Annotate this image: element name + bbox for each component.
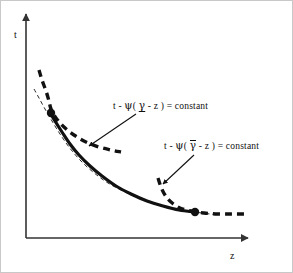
x-axis-label: z (230, 251, 234, 261)
psi-symbol: ψ (175, 139, 183, 151)
figure-container: t z t - ψ( γ - z ) = constant t - ψ( γ -… (0, 0, 293, 273)
curve-main-solid-curve (49, 111, 195, 212)
arrow-equation-lower-branch (89, 114, 136, 146)
eq-equals-constant: = constant (215, 141, 259, 151)
arrow-equation-upper-branch (163, 155, 194, 184)
equation-label-gamma-underline: t - ψ( γ - z ) = constant (113, 100, 208, 112)
marker-tangency-point-upper (191, 208, 199, 216)
eq-prefix: t - (113, 101, 124, 111)
psi-symbol: ψ (124, 99, 132, 111)
marker-tangency-point-lower (47, 109, 55, 117)
eq-prefix: t - (164, 141, 175, 151)
y-axis-label: t (14, 30, 17, 40)
tangency-markers-group (47, 109, 199, 216)
diagram-canvas (1, 1, 293, 273)
eq-equals-constant: = constant (164, 101, 208, 111)
eq-minus-z: - z (196, 141, 212, 151)
equation-label-gamma-overbar: t - ψ( γ - z ) = constant (164, 139, 259, 152)
gamma-symbol-overbar: γ (190, 139, 196, 151)
eq-minus-z: - z (145, 101, 161, 111)
